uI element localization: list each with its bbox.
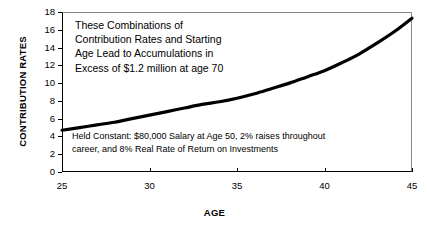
x-tick-label: 45 — [397, 181, 427, 191]
annotation-held-constant-text: Held Constant: $80,000 Salary at Age 50,… — [72, 130, 325, 155]
y-tick-label: 16 — [35, 25, 55, 35]
y-tick-label: 18 — [35, 7, 55, 17]
plot-area: These Combinations of Contribution Rates… — [62, 12, 412, 172]
x-tick-label: 30 — [135, 181, 165, 191]
y-tick-label: 4 — [35, 131, 55, 141]
y-tick-label: 8 — [35, 96, 55, 106]
y-tick-label: 6 — [35, 114, 55, 124]
x-tick-label: 40 — [310, 181, 340, 191]
y-tick-label: 14 — [35, 43, 55, 53]
y-axis-title: CONTRIBUTION RATES — [17, 17, 28, 167]
x-tick-label: 25 — [47, 181, 77, 191]
y-tick-label: 0 — [35, 167, 55, 177]
x-tick-mark — [412, 168, 413, 172]
y-tick-label: 2 — [35, 149, 55, 159]
y-tick-label: 10 — [35, 78, 55, 88]
y-tick-label: 12 — [35, 60, 55, 70]
y-tick-mark — [58, 172, 62, 173]
annotation-main-text: These Combinations of Contribution Rates… — [75, 18, 223, 75]
x-tick-label: 35 — [222, 181, 252, 191]
contribution-rates-chart: CONTRIBUTION RATES 024681012141618 25303… — [0, 0, 429, 226]
x-axis-title: AGE — [0, 207, 429, 218]
